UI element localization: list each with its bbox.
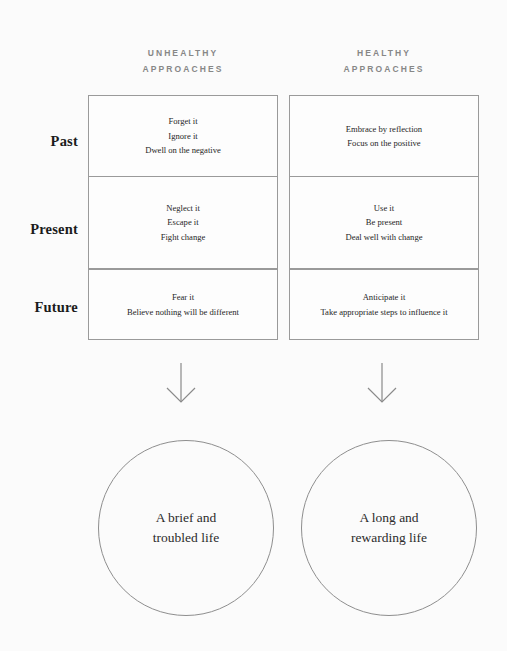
cell-text: Dwell on the negative (145, 143, 221, 158)
outcome-circle-unhealthy: A brief and troubled life (98, 440, 274, 616)
cell-past-unhealthy: Forget it Ignore it Dwell on the negativ… (88, 95, 278, 177)
cell-text: Believe nothing will be different (127, 305, 239, 320)
column-header-unhealthy-line2: APPROACHES (88, 61, 278, 77)
cell-text: Forget it (168, 114, 197, 129)
row-label-present: Present (0, 221, 78, 238)
column-header-unhealthy-line1: UNHEALTHY (88, 45, 278, 61)
cell-past-healthy: Embrace by reflection Focus on the posit… (289, 95, 479, 177)
row-label-future: Future (0, 299, 78, 316)
cell-present-unhealthy: Neglect it Escape it Fight change (88, 176, 278, 269)
column-header-healthy-line1: HEALTHY (289, 45, 479, 61)
outcome-text-line1: A brief and (156, 508, 217, 528)
cell-future-healthy: Anticipate it Take appropriate steps to … (289, 269, 479, 340)
cell-text: Be present (366, 215, 403, 230)
column-header-healthy: HEALTHY APPROACHES (289, 45, 479, 77)
outcome-text-line2: rewarding life (351, 528, 427, 548)
cell-text: Embrace by reflection (346, 122, 422, 137)
cell-text: Use it (374, 201, 394, 216)
cell-text: Ignore it (168, 129, 197, 144)
arrow-down-icon-healthy (360, 361, 404, 405)
cell-text: Neglect it (166, 201, 200, 216)
outcome-circle-healthy: A long and rewarding life (301, 440, 477, 616)
arrow-down-icon-unhealthy (159, 361, 203, 405)
cell-text: Anticipate it (363, 290, 406, 305)
outcome-text-line2: troubled life (153, 528, 219, 548)
column-header-unhealthy: UNHEALTHY APPROACHES (88, 45, 278, 77)
cell-future-unhealthy: Fear it Believe nothing will be differen… (88, 269, 278, 340)
outcome-text-line1: A long and (359, 508, 418, 528)
row-label-past: Past (0, 133, 78, 150)
column-header-healthy-line2: APPROACHES (289, 61, 479, 77)
cell-text: Take appropriate steps to influence it (320, 305, 447, 320)
cell-text: Deal well with change (345, 230, 422, 245)
cell-present-healthy: Use it Be present Deal well with change (289, 176, 479, 269)
cell-text: Fight change (161, 230, 206, 245)
cell-text: Focus on the positive (347, 136, 420, 151)
cell-text: Fear it (172, 290, 194, 305)
cell-text: Escape it (167, 215, 198, 230)
diagram-canvas: UNHEALTHY APPROACHES HEALTHY APPROACHES … (0, 0, 507, 651)
